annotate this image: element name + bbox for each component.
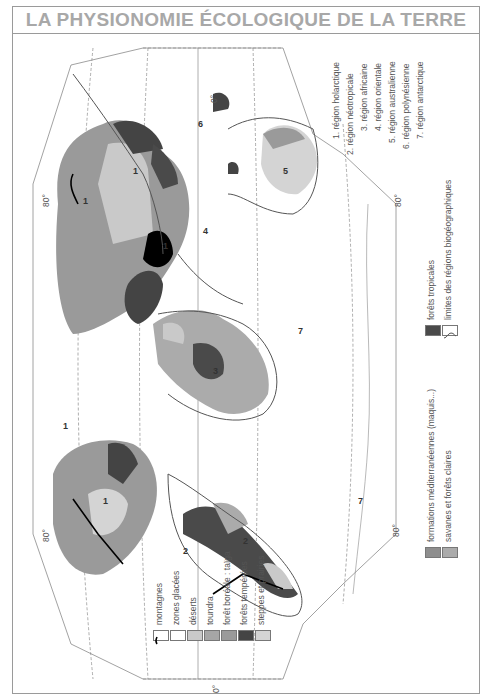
swatch-steppes <box>255 630 271 641</box>
map-frame: LA PHYSIONOMIE ÉCOLOGIQUE DE LA TERRE <box>12 6 480 694</box>
australia <box>213 93 317 195</box>
legend-label-savanes: savanes et forêts claires <box>443 450 453 542</box>
swatch-deserts <box>187 630 203 641</box>
region-label-7: 7 <box>298 326 303 336</box>
lat-label-bottom-right: 80° <box>391 524 401 537</box>
lat-label-top-left: 80° <box>41 194 51 207</box>
title-bar: LA PHYSIONOMIE ÉCOLOGIQUE DE LA TERRE <box>13 7 479 34</box>
meridian-label-bottom: 0° <box>211 685 221 693</box>
region-list-item-4: 4. région orientale <box>373 63 383 131</box>
swatch-montagnes <box>153 630 169 641</box>
legend-label-zones-glacees: zones glacées <box>171 571 181 625</box>
region-label-5: 5 <box>283 166 288 176</box>
swatch-savanes <box>442 547 458 558</box>
region-label-1c: 1 <box>63 421 68 431</box>
swatch-mediterraneen <box>425 547 441 558</box>
africa <box>153 310 269 414</box>
legend-label-montagnes: montagnes <box>154 583 164 625</box>
region-label-4: 4 <box>203 226 208 236</box>
region-label-2: 2 <box>183 546 188 556</box>
region-label-1b: 1 <box>133 166 138 176</box>
eurasia <box>56 120 189 334</box>
legend-label-mediterraneen: formations méditerranéennes (maquis...) <box>426 389 436 542</box>
swatch-foret-boreale <box>221 630 237 641</box>
region-label-1: 1 <box>83 196 88 206</box>
antarctica-coast <box>353 204 369 594</box>
swatch-limites <box>442 325 458 336</box>
legend-label-toundra: toundra <box>205 596 215 625</box>
boundary-line-icon <box>443 331 457 340</box>
north-america <box>53 440 157 574</box>
region-list-item-1: 1. région holarctique <box>331 62 341 139</box>
legend-label-foret-boreale: forêt boréale : taïga <box>222 551 232 625</box>
legend-label-steppes: steppes et prairies <box>256 556 266 625</box>
region-list-item-6: 6. région polynésienne <box>401 63 411 149</box>
swatch-forets-tropicales <box>425 325 441 336</box>
region-list-item-3: 3. région africaine <box>359 63 369 131</box>
region-list-item-2: 2. région néotropicale <box>345 73 355 155</box>
region-label-7b: 7 <box>358 496 363 506</box>
swatch-toundra <box>204 630 220 641</box>
region-label-1d: 1 <box>103 496 108 506</box>
swatch-forets-temperees <box>238 630 254 641</box>
region-list-item-5: 5. région australienne <box>387 61 397 143</box>
region-label-2b: 2 <box>243 536 248 546</box>
legend-label-forets-temperees: forêts tempérées <box>239 561 249 625</box>
swatch-zones-glacees <box>170 630 186 641</box>
lat-label-bottom-left: 80° <box>41 529 51 542</box>
lat-label-top-right: 80° <box>393 194 403 207</box>
region-label-1e: 1 <box>163 241 168 251</box>
region-label-3: 3 <box>213 366 218 376</box>
meridian-label-top: 0° <box>209 95 219 103</box>
mountain-icon <box>154 636 168 645</box>
region-label-6: 6 <box>198 119 203 129</box>
legend-label-deserts: déserts <box>188 597 198 625</box>
region-list-item-7: 7. région antarctique <box>415 62 425 140</box>
legend-label-limites: limites des régions biogéographiques <box>443 180 453 320</box>
page-title: LA PHYSIONOMIE ÉCOLOGIQUE DE LA TERRE <box>26 9 466 31</box>
legend-label-forets-tropicales: forêts tropicales <box>426 260 436 320</box>
